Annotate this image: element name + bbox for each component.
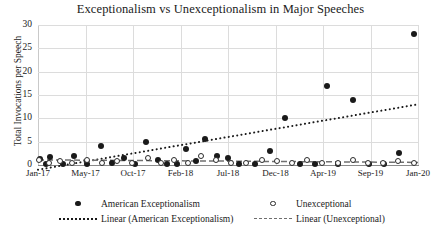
y-tick-label: 20 — [0, 67, 32, 77]
chart-legend: American Exceptionalism Linear (American… — [0, 196, 441, 236]
data-point-open — [335, 160, 341, 166]
y-tick-label: 5 — [0, 137, 32, 147]
data-point-open — [185, 160, 191, 166]
legend-item-linear-unexceptional[interactable]: Linear (Unexceptional) — [253, 211, 385, 226]
legend-label: Linear (Unexceptional) — [293, 214, 385, 224]
dashed-line-icon — [253, 218, 293, 219]
data-point-filled — [297, 161, 303, 167]
legend-label: Unexceptional — [293, 199, 351, 209]
data-point-open — [350, 157, 356, 163]
y-tick-label: 10 — [0, 113, 32, 123]
data-point-filled — [71, 153, 77, 159]
data-point-filled — [324, 83, 330, 89]
data-point-open — [171, 157, 177, 163]
data-point-open — [69, 160, 75, 166]
data-point-open — [145, 155, 151, 161]
legend-label: American Exceptionalism — [98, 199, 200, 209]
y-tick-label: 30 — [0, 20, 32, 30]
y-tick-label: 15 — [0, 90, 32, 100]
data-point-filled — [193, 158, 199, 164]
legend-column-right: Unexceptional Linear (Unexceptional) — [253, 196, 385, 226]
data-point-filled — [47, 154, 53, 160]
data-point-open — [411, 160, 417, 166]
data-point-open — [259, 157, 265, 163]
data-point-open — [274, 158, 280, 164]
data-point-filled — [143, 139, 149, 145]
chart-title: Exceptionalism vs Unexceptionalism in Ma… — [0, 2, 441, 17]
dotted-line-icon — [58, 218, 98, 220]
data-point-open — [365, 160, 371, 166]
filled-circle-icon — [58, 201, 98, 207]
legend-column-left: American Exceptionalism Linear (American… — [58, 196, 233, 226]
data-point-filled — [183, 146, 189, 152]
data-point-filled — [236, 161, 242, 167]
x-tick-label: Jan-20 — [388, 168, 441, 178]
data-point-filled — [121, 155, 127, 161]
data-point-filled — [252, 161, 258, 167]
data-point-open — [289, 160, 295, 166]
open-circle-icon — [253, 201, 293, 207]
data-point-filled — [267, 148, 273, 154]
data-point-open — [57, 158, 63, 164]
gridline-vertical — [418, 25, 419, 165]
data-point-filled — [164, 161, 170, 167]
legend-item-unexceptional[interactable]: Unexceptional — [253, 196, 385, 211]
legend-label: Linear (American Exceptionalism) — [98, 214, 233, 224]
plot-area — [38, 25, 418, 165]
legend-item-linear-american-exceptionalism[interactable]: Linear (American Exceptionalism) — [58, 211, 233, 226]
legend-item-american-exceptionalism[interactable]: American Exceptionalism — [58, 196, 233, 211]
chart-container: Exceptionalism vs Unexceptionalism in Ma… — [0, 0, 441, 239]
data-point-open — [158, 160, 164, 166]
y-tick-label: 25 — [0, 43, 32, 53]
data-point-open — [84, 157, 90, 163]
trendlines — [38, 25, 418, 165]
data-point-filled — [312, 161, 318, 167]
